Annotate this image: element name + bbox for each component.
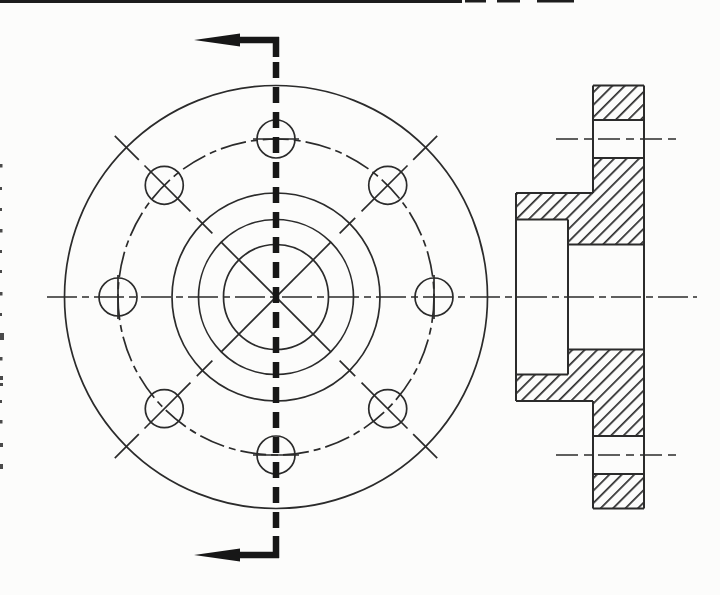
section-flange-rim-lower [593,474,644,509]
scanned-drawing-page [0,0,720,595]
page-edge-speck [0,376,3,380]
page-edge-speck [0,357,3,361]
page-edge-line [537,0,574,3]
section-flange-rim-upper [593,86,644,121]
page-edge-speck [0,229,3,233]
page-edge-speck [0,383,3,386]
page-edge-speck [0,464,3,469]
page-edge-speck [0,292,3,296]
page-edge-line [497,0,520,3]
page-edge-speck [0,250,2,253]
page-edge-speck [0,443,3,447]
page-edge-speck [0,208,2,211]
page-edge-speck [0,333,4,340]
page-edge-speck [0,187,2,190]
page-edge-speck [0,420,3,424]
drawing-svg [0,0,720,595]
page-edge-speck [0,313,2,316]
page-edge-line [0,0,462,3]
page-edge-speck [0,164,3,168]
page-edge-line [465,0,486,3]
page-edge-speck [0,400,2,403]
page-edge-speck [0,270,2,273]
